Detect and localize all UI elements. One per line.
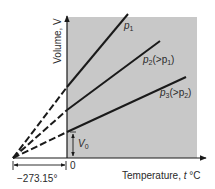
intercept-label: −273.15°: [17, 173, 57, 184]
origin-label: 0: [70, 160, 76, 171]
charles-law-diagram: Volume, V Temperature, t °C 0 −273.15° V…: [0, 0, 215, 189]
x-axis-label: Temperature, t °C: [122, 170, 200, 181]
y-axis-label: Volume, V: [52, 18, 63, 64]
